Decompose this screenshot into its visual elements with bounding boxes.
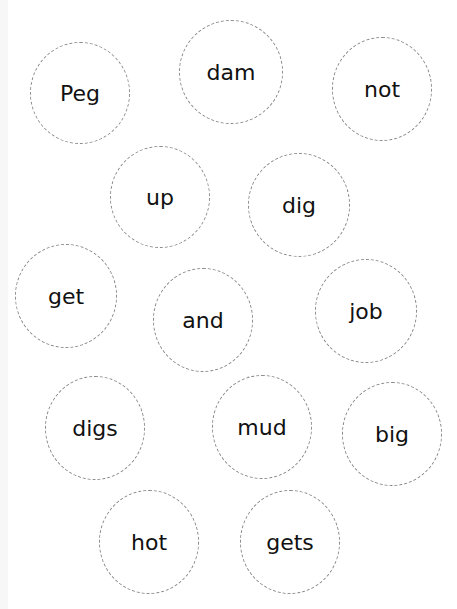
word-circle-hot: hot (99, 490, 199, 594)
word-circle-not: not (332, 37, 432, 141)
word-label: mud (237, 415, 286, 440)
word-circle-digs: digs (45, 376, 145, 480)
word-circle-mud: mud (212, 375, 312, 479)
word-label: digs (72, 416, 118, 441)
word-circle-gets: gets (240, 490, 340, 594)
word-label: Peg (60, 81, 100, 106)
word-label: get (48, 284, 84, 309)
word-circle-dig: dig (248, 153, 350, 257)
word-circle-big: big (342, 382, 442, 486)
word-label: hot (131, 530, 167, 555)
word-label: gets (266, 530, 314, 555)
word-circle-up: up (110, 146, 210, 248)
word-label: dam (207, 60, 256, 85)
page-edge (0, 0, 8, 609)
word-circle-job: job (315, 259, 417, 363)
word-circle-get: get (15, 244, 117, 348)
word-label: up (146, 185, 174, 210)
word-label: not (364, 77, 400, 102)
word-label: dig (282, 193, 316, 218)
word-label: big (375, 422, 409, 447)
word-circle-dam: dam (179, 20, 283, 124)
word-circle-and: and (153, 268, 253, 372)
word-label: and (182, 308, 223, 333)
word-label: job (349, 299, 383, 324)
word-circle-peg: Peg (30, 42, 130, 144)
